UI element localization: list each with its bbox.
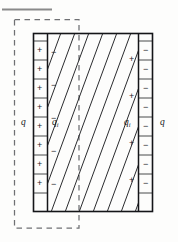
dielectric-right-face-charge: + [129,139,134,148]
right-plate-charge: − [143,84,148,93]
right-plate-charge: − [143,122,148,131]
figure-canvas [0,0,178,242]
right-plate-charge: − [143,65,148,74]
induced-charge-left-subscript: i [57,121,59,128]
dielectric-right-face-charge: + [129,92,134,101]
right-plate-charge: − [143,160,148,169]
induced-charge-label-right: qi [124,118,131,129]
dielectric-left-face-charge: − [51,81,56,90]
left-plate-charge: + [37,160,42,169]
right-plate-charge: − [143,179,148,188]
free-charge-left-symbol: q [21,117,26,127]
dielectric-right-face-charge: + [129,55,134,64]
induced-charge-right-subscript: i [129,121,131,128]
left-plate-charge: + [37,65,42,74]
free-charge-right-symbol: q [160,117,165,127]
dielectric-left-face-charge: − [51,147,56,156]
left-plate-charge: + [37,122,42,131]
free-charge-label-left: q [21,118,26,128]
dielectric-left-face-charge: − [51,48,56,57]
left-plate-charge: + [37,141,42,150]
free-charge-label-right: q [160,118,165,128]
right-plate-charge: − [143,141,148,150]
capacitor-dielectric-figure: + + + + + + + + − − − − − − − − − − − − … [0,0,178,242]
left-plate-charge: + [37,103,42,112]
right-plate-charge: − [143,103,148,112]
dielectric-hatching [0,30,178,215]
right-plate-charge: − [143,46,148,55]
left-plate-charge: + [37,84,42,93]
dielectric-left-face-charge: − [51,180,56,189]
dielectric-right-face-charge: + [129,176,134,185]
left-plate-charge: + [37,46,42,55]
induced-charge-label-left: qi [52,118,59,129]
left-plate-charge: + [37,179,42,188]
